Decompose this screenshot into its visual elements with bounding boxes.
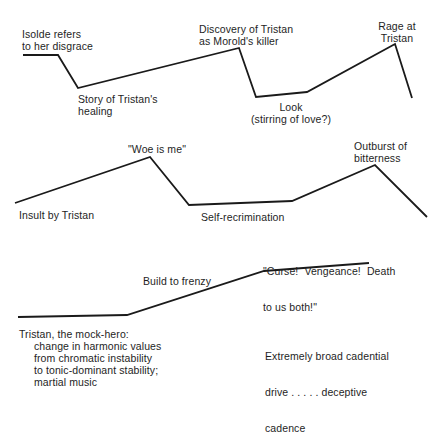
label-line: to her disgrace [22,40,93,52]
label-line: Insult by Tristan [19,209,94,221]
label-line: Rage at [376,20,418,32]
label-line: Tristan [376,32,418,44]
label-line: Story of Tristan's [78,93,158,105]
label-curse-vengeance-death: "Curse! Vengeance! Death to us both!" [263,241,395,325]
label-line: to tonic-dominant stability; [19,364,161,376]
label-line: Build to frenzy [143,275,211,287]
label-line: change in harmonic values [19,340,161,352]
label-line: Tristan, the mock-hero: [19,328,161,340]
label-isolde-refers-to-disgrace: Isolde refers to her disgrace [22,28,93,52]
label-insult-by-tristan: Insult by Tristan [19,209,94,221]
label-discovery-of-tristan: Discovery of Tristan as Morold's killer [199,23,293,47]
label-line: Isolde refers [22,28,93,40]
label-line: Self-recrimination [201,211,285,223]
label-outburst-of-bitterness: Outburst of bitterness [354,140,407,164]
label-line: "Curse! Vengeance! Death [263,265,395,277]
label-woe-is-me: "Woe is me" [128,143,186,155]
label-line: Look [242,101,340,113]
label-line: drive . . . . . deceptive [265,386,389,398]
label-line: healing [78,105,158,117]
label-line: Extremely broad cadential [265,350,389,362]
label-line: as Morold's killer [199,35,293,47]
label-line: "Woe is me" [128,143,186,155]
tension-curve-row-2 [15,157,427,217]
label-line: martial music [19,376,161,388]
label-build-to-frenzy: Build to frenzy [143,275,211,287]
label-rage-at-tristan: Rage at Tristan [376,20,418,44]
label-line: (stirring of love?) [242,113,340,125]
label-line: to us both!" [263,301,395,313]
label-line: Discovery of Tristan [199,23,293,35]
label-line: bitterness [354,152,407,164]
label-line: cadence [265,422,389,434]
label-line: Outburst of [354,140,407,152]
label-self-recrimination: Self-recrimination [201,211,285,223]
label-extremely-broad-cadential-drive: Extremely broad cadential drive . . . . … [265,326,389,436]
label-look-stirring-of-love: Look (stirring of love?) [242,101,340,125]
label-tristan-mock-hero: Tristan, the mock-hero: change in harmon… [19,328,161,388]
label-line: from chromatic instability [19,352,161,364]
tension-curve-row-1 [23,44,412,98]
label-story-of-tristans-healing: Story of Tristan's healing [78,93,158,117]
